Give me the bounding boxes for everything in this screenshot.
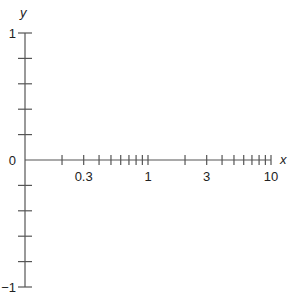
x-axis-label: x	[279, 152, 287, 167]
x-tick-label: 3	[203, 169, 210, 184]
y-axis-label: y	[19, 5, 28, 20]
axes	[18, 33, 271, 287]
log-axes-chart: 0.3131010−1 x y	[0, 0, 296, 305]
y-tick-label: 1	[9, 26, 16, 41]
x-tick-label: 10	[264, 169, 278, 184]
x-tick-label: 1	[144, 169, 151, 184]
y-tick-label: 0	[9, 153, 16, 168]
y-tick-label: −1	[1, 280, 16, 295]
x-tick-label: 0.3	[75, 169, 93, 184]
